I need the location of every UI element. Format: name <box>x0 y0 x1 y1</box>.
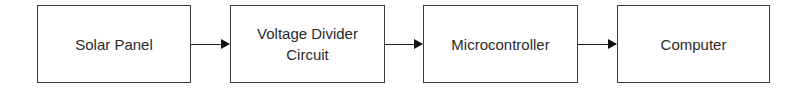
block-label: Solar Panel <box>75 34 153 55</box>
block-label: Computer <box>661 34 727 55</box>
block-label-line1: Voltage Divider <box>257 23 358 44</box>
block-label-line2: Circuit <box>257 44 358 65</box>
block-computer: Computer <box>617 5 770 83</box>
arrow-microcontroller-to-computer <box>578 44 616 45</box>
block-voltage-divider-circuit: Voltage Divider Circuit <box>230 5 385 83</box>
block-solar-panel: Solar Panel <box>37 5 191 83</box>
block-microcontroller: Microcontroller <box>423 5 578 83</box>
block-label: Microcontroller <box>451 34 549 55</box>
arrow-divider-to-microcontroller <box>385 44 422 45</box>
arrow-solar-to-divider <box>191 44 229 45</box>
